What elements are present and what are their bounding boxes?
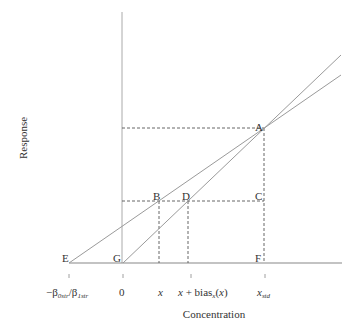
tick-label-x-bias: x + biasx(x) [177, 286, 228, 300]
tick-label-zero: 0 [119, 286, 125, 298]
tick-label-intercept: −β0str/β1str [46, 286, 89, 300]
point-label-e: E [62, 252, 69, 264]
point-label-b: B [153, 190, 160, 202]
x-axis-title: Concentration [183, 308, 246, 320]
line-through-e [69, 75, 341, 263]
line-through-g [123, 55, 341, 263]
point-label-g: G [113, 252, 121, 264]
point-label-f: F [255, 252, 261, 264]
point-label-c: C [255, 190, 262, 202]
y-axis-title: Response [17, 117, 29, 159]
point-label-a: A [255, 121, 263, 133]
point-label-d: D [182, 190, 190, 202]
calibration-diagram: A B D C E G F −β0str/β1str 0 x x + biasx… [0, 0, 359, 331]
tick-label-x-std: xstd [256, 286, 271, 300]
tick-label-x: x [157, 286, 163, 298]
